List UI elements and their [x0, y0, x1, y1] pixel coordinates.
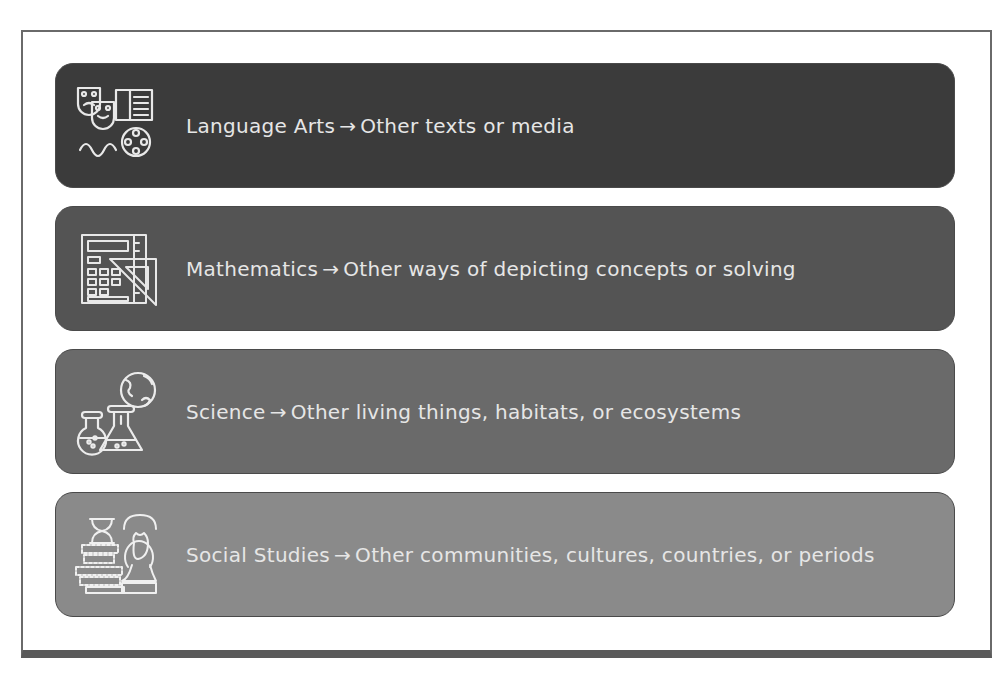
target: Other communities, cultures, countries, … — [355, 543, 875, 567]
calculator-ruler-icon — [72, 223, 164, 315]
target: Other living things, habitats, or ecosys… — [291, 400, 742, 424]
arrow-icon: → — [270, 400, 287, 424]
row-label: Language Arts→Other texts or media — [186, 114, 575, 138]
row-language-arts: Language Arts→Other texts or media — [55, 63, 955, 188]
row-science: Science→Other living things, habitats, o… — [55, 349, 955, 474]
arrow-icon: → — [334, 543, 351, 567]
row-social-studies: Social Studies→Other communities, cultur… — [55, 492, 955, 617]
subject: Mathematics — [186, 257, 318, 281]
target: Other ways of depicting concepts or solv… — [343, 257, 796, 281]
row-mathematics: Mathematics→Other ways of depicting conc… — [55, 206, 955, 331]
target: Other texts or media — [360, 114, 575, 138]
subject: Science — [186, 400, 266, 424]
row-label: Mathematics→Other ways of depicting conc… — [186, 257, 796, 281]
row-label: Social Studies→Other communities, cultur… — [186, 543, 875, 567]
theater-masks-book-film-icon — [72, 80, 164, 172]
subject: Social Studies — [186, 543, 330, 567]
arrow-icon: → — [322, 257, 339, 281]
row-label: Science→Other living things, habitats, o… — [186, 400, 741, 424]
hourglass-books-bust-icon — [72, 509, 164, 601]
flasks-globe-icon — [72, 366, 164, 458]
subject: Language Arts — [186, 114, 335, 138]
arrow-icon: → — [339, 114, 356, 138]
